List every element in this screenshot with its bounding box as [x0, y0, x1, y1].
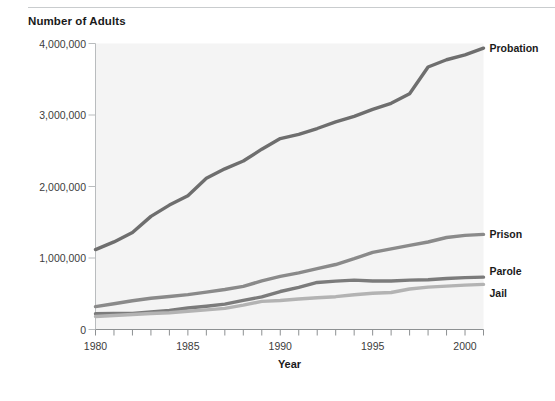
x-tick-label: 1990 [269, 340, 292, 352]
x-tick-label: 2000 [453, 340, 476, 352]
y-tick-label: 2,000,000 [39, 181, 86, 193]
y-tick-label: 4,000,000 [39, 38, 86, 50]
series-label-prison: Prison [490, 228, 523, 240]
x-axis-title: Year [278, 358, 301, 370]
x-tick-label: 1980 [84, 340, 107, 352]
y-tick-label: 0 [80, 324, 86, 336]
y-tick-label: 1,000,000 [39, 252, 86, 264]
y-tick-label: 3,000,000 [39, 109, 86, 121]
chart-figure: Number of Adults 01,000,0002,000,0003,00… [0, 0, 555, 401]
series-label-parole: Parole [490, 265, 522, 277]
series-label-jail: Jail [490, 287, 508, 299]
series-label-probation: Probation [490, 42, 539, 54]
y-axis-tick-labels: 01,000,0002,000,0003,000,0004,000,000 [18, 0, 86, 401]
x-tick-label: 1985 [176, 340, 199, 352]
x-tick-label: 1995 [361, 340, 384, 352]
